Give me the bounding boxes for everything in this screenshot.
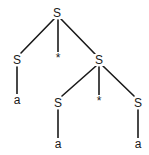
inner-star-node: * xyxy=(96,95,103,107)
right-s-node: S xyxy=(94,54,104,66)
edge-right-s-to-inner-right-s xyxy=(103,66,134,96)
left-s-node: S xyxy=(12,54,22,66)
edge-root-to-left-s xyxy=(21,19,54,53)
inner-right-s-node: S xyxy=(133,97,143,109)
root-s-node: S xyxy=(52,7,62,19)
leaf-a-node: a xyxy=(13,94,22,106)
leaf-a-node: a xyxy=(54,138,63,150)
inner-left-s-node: S xyxy=(53,97,63,109)
star-node: * xyxy=(55,52,62,64)
leaf-a-node: a xyxy=(134,138,143,150)
edge-right-s-to-inner-left-s xyxy=(62,66,96,96)
edge-root-to-right-s xyxy=(61,19,95,54)
parse-tree-edges xyxy=(0,0,149,155)
